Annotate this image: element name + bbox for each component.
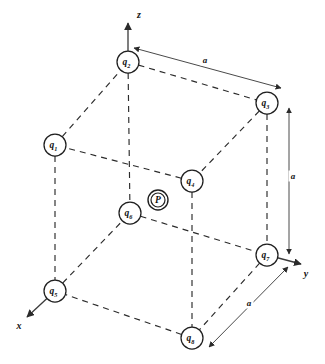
- charge-subscript-q8: 8: [191, 338, 194, 345]
- charge-subscript-q2: 2: [126, 62, 130, 69]
- charge-node-q5: q5: [44, 280, 66, 302]
- dimension-line-a-top: [134, 48, 281, 88]
- cube-edge-q7-q8: [199, 263, 259, 330]
- cube-edge-q2-q3: [139, 65, 257, 100]
- charge-nodes: q1q2q3q4q5q6q7q8P: [44, 51, 278, 349]
- axis-label-x: x: [16, 320, 22, 331]
- dimension-label-a-vertical: a: [291, 171, 296, 181]
- field-point-label: P: [155, 195, 161, 205]
- charge-node-q6: q6: [119, 202, 141, 224]
- charge-subscript-q1: 1: [54, 145, 57, 152]
- cube-edge-q4-q1: [66, 148, 182, 178]
- axis-label-y: y: [303, 268, 309, 279]
- charge-subscript-q3: 3: [265, 103, 269, 110]
- cube-edge-q6-q7: [141, 216, 257, 252]
- dimension-label-a-bottom: a: [247, 298, 252, 308]
- cube-edge-q1-q2: [62, 70, 120, 136]
- charge-node-q2: q2: [117, 51, 139, 73]
- charge-subscript-q4: 4: [190, 181, 194, 188]
- cube-edge-q2-q6: [128, 73, 130, 202]
- dimension-label-a-top: a: [203, 55, 208, 65]
- field-point-P: P: [148, 190, 168, 210]
- figure-canvas: aaa zyx q1q2q3q4q5q6q7q8P: [0, 0, 325, 364]
- charge-node-q7: q7: [256, 244, 278, 266]
- axis-label-z: z: [136, 9, 141, 20]
- charge-node-q1: q1: [44, 134, 66, 156]
- charge-cube-figure: aaa zyx q1q2q3q4q5q6q7q8P: [0, 0, 325, 364]
- charge-subscript-q5: 5: [54, 291, 57, 298]
- charge-node-q3: q3: [256, 92, 278, 114]
- charge-node-q4: q4: [181, 170, 203, 192]
- cube-edge-q8-q5: [65, 295, 181, 335]
- cube-edge-q3-q4: [200, 111, 260, 173]
- charge-node-q8: q8: [181, 327, 203, 349]
- cube-edge-q5-q6: [63, 221, 123, 283]
